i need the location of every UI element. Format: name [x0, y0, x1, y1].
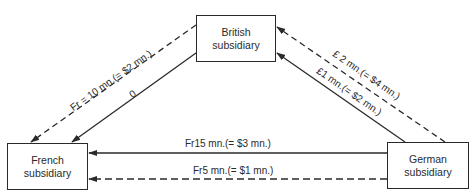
node-label-line2: subsidiary	[212, 39, 259, 52]
arrow-german-to-british-solid	[277, 53, 405, 142]
french-subsidiary-node: French subsidiary	[7, 143, 88, 190]
node-label-line2: subsidiary	[404, 166, 451, 179]
british-subsidiary-node: British subsidiary	[196, 15, 276, 62]
node-label-line1: British	[221, 26, 250, 39]
node-label-line1: German	[409, 153, 447, 166]
node-label-line2: subsidiary	[24, 167, 71, 180]
arrow-german-to-british-dashed	[277, 27, 445, 142]
node-label-line1: French	[31, 154, 64, 167]
german-subsidiary-node: German subsidiary	[387, 142, 469, 189]
flow-label-german-french-dashed: Fr5 mn.(= $1 mn.)	[193, 165, 273, 176]
flow-label-german-french-solid: Fr15 mn.(= $3 mn.)	[185, 138, 271, 149]
